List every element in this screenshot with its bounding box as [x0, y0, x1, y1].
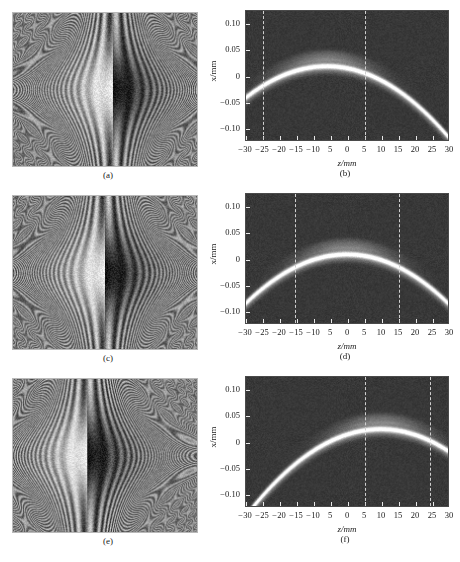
y-tick-label: −0.10	[220, 489, 240, 499]
y-tick-label: −0.05	[220, 463, 240, 473]
x-tick-labels-d: −30−25−20−15−105051015202530	[237, 326, 457, 340]
figure-row-3: (e) −30−25−20−15−105051015202530 0.100.0…	[0, 366, 460, 554]
figure-row-1: (a) −30−25−20−15−105051015202530 0.100.0…	[0, 0, 460, 188]
x-tick-mark	[331, 502, 332, 506]
x-tick-mark	[399, 502, 400, 506]
panel-label-f: (f)	[315, 534, 375, 544]
bscan-panel-d: −30−25−20−15−105051015202530 0.100.050−0…	[245, 193, 450, 353]
y-tick-mark	[246, 233, 250, 234]
y-tick-label: −0.05	[220, 97, 240, 107]
x-tick-label: −20	[272, 509, 285, 521]
x-tick-mark	[416, 319, 417, 323]
y-tick-label: −0.10	[220, 306, 240, 316]
y-tick-mark	[246, 286, 250, 287]
x-tick-label: 10	[377, 326, 386, 338]
y-tick-mark	[246, 416, 250, 417]
hologram-canvas-e	[13, 379, 197, 532]
y-tick-mark	[246, 495, 250, 496]
x-tick-label: −30	[238, 326, 251, 338]
dashed-marker-line	[263, 11, 264, 140]
x-tick-label: −25	[255, 143, 268, 155]
y-tick-mark	[246, 77, 250, 78]
x-tick-label: 30	[445, 143, 454, 155]
y-tick-label: 0.10	[225, 384, 240, 394]
x-tick-label: 0	[345, 509, 349, 521]
x-tick-label: 15	[394, 143, 403, 155]
panel-label-b: (b)	[315, 168, 375, 178]
hologram-image-e	[12, 378, 198, 533]
x-tick-mark	[246, 502, 247, 506]
x-tick-mark	[297, 502, 298, 506]
bscan-plot-area-d	[245, 193, 449, 324]
x-tick-label: −10	[306, 326, 319, 338]
x-tick-mark	[382, 136, 383, 140]
bscan-panel-b: −30−25−20−15−105051015202530 0.100.050−0…	[245, 10, 450, 170]
x-tick-label: 5	[328, 143, 332, 155]
x-tick-label: −25	[255, 326, 268, 338]
x-tick-mark	[382, 502, 383, 506]
y-tick-label: 0.10	[225, 201, 240, 211]
x-tick-mark	[348, 319, 349, 323]
x-tick-label: 5	[362, 509, 366, 521]
x-tick-labels-b: −30−25−20−15−105051015202530	[237, 143, 457, 157]
figure-row-2: (c) −30−25−20−15−105051015202530 0.100.0…	[0, 183, 460, 371]
y-tick-label: −0.05	[220, 280, 240, 290]
x-tick-mark	[314, 319, 315, 323]
panel-label-e: (e)	[78, 536, 138, 546]
y-tick-mark	[246, 260, 250, 261]
dashed-marker-line	[365, 11, 366, 140]
x-tick-mark	[280, 319, 281, 323]
hologram-panel-e	[12, 378, 198, 533]
x-tick-mark	[263, 502, 264, 506]
x-tick-mark	[331, 136, 332, 140]
x-tick-mark	[297, 319, 298, 323]
y-tick-label: 0.05	[225, 44, 240, 54]
x-tick-label: 30	[445, 326, 454, 338]
x-tick-label: 20	[411, 509, 420, 521]
x-tick-label: 5	[328, 326, 332, 338]
y-tick-mark	[246, 443, 250, 444]
y-tick-label: −0.10	[220, 123, 240, 133]
y-axis-title-d: x/mm	[208, 224, 218, 284]
x-axis-title-d: z/mm	[245, 341, 449, 351]
x-tick-label: 20	[411, 143, 420, 155]
bscan-canvas-d	[246, 194, 448, 323]
x-tick-mark	[246, 319, 247, 323]
dashed-marker-line	[295, 194, 296, 323]
hologram-image-a	[12, 12, 198, 167]
y-tick-label: 0.10	[225, 18, 240, 28]
panel-label-d: (d)	[315, 351, 375, 361]
x-axis-title-b: z/mm	[245, 158, 449, 168]
x-tick-label: 25	[428, 326, 437, 338]
bscan-canvas-f	[246, 377, 448, 506]
x-tick-label: 10	[377, 143, 386, 155]
y-axis-title-f: x/mm	[208, 407, 218, 467]
x-tick-mark	[399, 136, 400, 140]
x-tick-labels-f: −30−25−20−15−105051015202530	[237, 509, 457, 523]
y-tick-mark	[246, 50, 250, 51]
x-tick-label: 25	[428, 143, 437, 155]
y-tick-mark	[246, 312, 250, 313]
hologram-canvas-c	[13, 196, 197, 349]
bscan-canvas-b	[246, 11, 448, 140]
x-tick-mark	[297, 136, 298, 140]
dashed-marker-line	[365, 377, 366, 506]
x-tick-label: 25	[428, 509, 437, 521]
figure-container: (a) −30−25−20−15−105051015202530 0.100.0…	[0, 0, 460, 562]
y-tick-mark	[246, 24, 250, 25]
y-tick-label: 0	[236, 71, 240, 81]
x-tick-mark	[433, 319, 434, 323]
x-tick-label: −20	[272, 326, 285, 338]
x-tick-mark	[382, 319, 383, 323]
x-tick-label: 0	[345, 143, 349, 155]
y-axis-title-b: x/mm	[208, 41, 218, 101]
bscan-plot-area-f	[245, 376, 449, 507]
dashed-marker-line	[399, 194, 400, 323]
y-tick-mark	[246, 207, 250, 208]
x-tick-label: 30	[445, 509, 454, 521]
x-tick-label: −30	[238, 143, 251, 155]
y-tick-mark	[246, 469, 250, 470]
x-tick-mark	[314, 136, 315, 140]
y-tick-label: 0	[236, 254, 240, 264]
panel-label-c: (c)	[78, 353, 138, 363]
